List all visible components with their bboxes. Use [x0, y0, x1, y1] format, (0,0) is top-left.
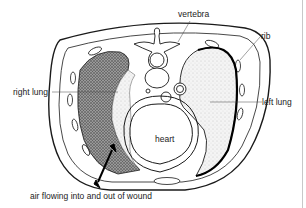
left-lung: [180, 48, 237, 177]
label-vertebra: vertebra: [178, 10, 209, 19]
label-left-lung: left lung: [262, 98, 292, 107]
label-wound-airflow: air flowing into and out of wound: [30, 192, 152, 201]
vertebra: [134, 28, 180, 88]
label-rib: rib: [261, 32, 270, 41]
label-right-lung: right lung: [13, 88, 48, 97]
label-heart: heart: [155, 135, 174, 144]
image-edge-line: [302, 0, 303, 208]
chest-cross-section-diagram: right lung vertebra rib left lung heart …: [0, 0, 306, 208]
